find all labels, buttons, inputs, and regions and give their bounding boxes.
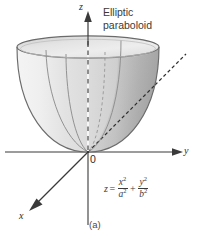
equation-term1-denominator: a2 [118, 190, 128, 200]
equation-fraction-1: x2 a2 [118, 178, 128, 200]
equation-term2-den-exponent: 2 [144, 187, 147, 194]
axis-x-negative-line [36, 152, 88, 204]
equation-term2-num-exponent: 2 [144, 175, 147, 182]
equation-equals: = [108, 183, 117, 194]
equation-fraction-2: y2 b2 [138, 178, 148, 200]
surface-equation: z = x2 a2 + y2 b2 [104, 178, 149, 200]
paraboloid-diagram [0, 0, 199, 239]
elliptic-paraboloid-figure: Elliptic paraboloid z y x 0 (a) z = x2 a… [0, 0, 199, 239]
equation-term2-denominator: b2 [138, 190, 148, 200]
figure-title-line-2: paraboloid [103, 19, 152, 32]
axis-z-arrowhead [84, 11, 92, 22]
figure-caption: (a) [89, 219, 101, 231]
equation-term1-den-exponent: 2 [123, 187, 126, 194]
origin-label: 0 [90, 153, 96, 166]
figure-title-line-1: Elliptic [103, 6, 152, 19]
axis-z-label: z [79, 1, 83, 13]
origin-point [87, 151, 89, 153]
equation-term1-num-exponent: 2 [123, 175, 126, 182]
axis-x-label: x [19, 210, 23, 222]
axis-y-label: y [184, 145, 188, 157]
figure-title: Elliptic paraboloid [103, 6, 152, 32]
axis-y-arrowhead [172, 148, 183, 156]
axis-x-positive-line [155, 54, 186, 85]
equation-plus: + [129, 183, 138, 194]
axis-x-arrowhead [29, 199, 43, 212]
